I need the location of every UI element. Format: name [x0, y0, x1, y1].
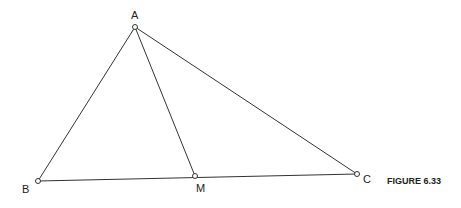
segment-ab — [38, 27, 135, 181]
point-m — [193, 174, 198, 179]
label-b: B — [22, 183, 29, 195]
label-c: C — [363, 173, 371, 185]
figure-caption: FIGURE 6.33 — [387, 176, 441, 186]
segment-am — [135, 27, 195, 176]
triangle-diagram: A B M C FIGURE 6.33 — [0, 0, 461, 208]
segment-ac — [135, 27, 357, 174]
point-a — [133, 25, 138, 30]
label-m: M — [196, 182, 205, 194]
label-a: A — [131, 9, 139, 21]
point-b — [36, 179, 41, 184]
point-c — [355, 172, 360, 177]
